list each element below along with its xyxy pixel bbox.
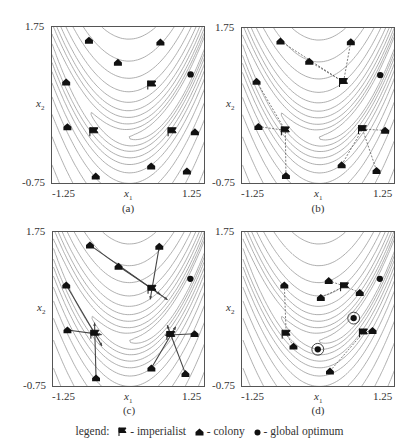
colony-icon [92,374,100,381]
colony-icon [155,243,163,250]
empire-link [343,42,350,82]
optimum-dot-icon [187,276,193,282]
y-axis-label: x2 [36,97,44,112]
x-max-tick: 1.25 [373,390,392,402]
plot-area-a [51,26,205,184]
x-max-tick: 1.25 [182,390,201,402]
flag-icon [282,330,290,339]
flag-icon [167,331,175,340]
colony-icon [356,289,364,296]
optimum-dot-icon [315,346,321,352]
colony-icon [86,242,94,249]
panel-caption: (d) [298,404,338,416]
markers [242,28,395,184]
colony-icon [325,277,333,284]
panel-caption: (c) [109,404,149,416]
flag-icon [148,81,156,90]
colony-icon [317,294,325,301]
panel-caption: (b) [298,202,338,214]
x-axis-label: x1 [124,390,132,405]
colony-icon [276,38,284,45]
plot-area-c [52,231,205,387]
y-min-tick: -0.75 [22,176,45,188]
x-min-tick: -1.25 [241,187,264,199]
colony-icon [147,162,155,169]
y-axis-label: x2 [226,97,234,112]
legend: legend: - imperialist - colony - global … [0,425,419,437]
x-max-tick: 1.25 [373,187,392,199]
x-axis-label: x1 [314,390,322,405]
x-min-tick: -1.25 [52,187,75,199]
dot-icon [254,429,261,436]
markers [53,232,205,387]
legend-optimum: - global optimum [254,425,344,437]
legend-optimum-label: - global optimum [264,425,344,437]
colony-icon [183,167,191,174]
colony-icon [282,172,290,179]
x-min-tick: -1.25 [241,390,264,402]
y-min-tick: -0.75 [23,379,46,391]
x-min-tick: -1.25 [52,390,75,402]
optimum-dot-icon [351,315,357,321]
empire-link [309,61,343,82]
plot-area-d [241,231,395,387]
y-max-tick: 1.75 [25,20,44,32]
colony-icon [63,123,71,130]
colony-icon [62,78,70,85]
legend-imperialist: - imperialist [118,425,186,437]
colony-icon [156,39,164,46]
empire-link [284,285,286,334]
colony-house-icon [195,428,204,436]
plot-area-b [241,27,395,184]
y-max-tick: 1.75 [215,21,234,33]
colony-icon [147,364,155,371]
colony-icon [85,37,93,44]
colony-icon [182,370,190,377]
colony-icon [290,343,298,350]
flag-icon [90,127,98,136]
empire-link [257,81,286,130]
x-axis-label: x1 [314,187,322,202]
flag-icon [281,126,289,135]
optimum-dot-icon [377,72,383,78]
legend-prefix: legend: [76,425,110,437]
arrowhead-icon [93,323,96,326]
colony-icon [326,368,334,375]
colony-icon [64,326,72,333]
y-min-tick: -0.75 [212,379,235,391]
legend-colony: - colony [195,425,245,437]
markers [242,232,395,387]
colony-icon [338,161,346,168]
empire-link [362,129,376,170]
empire-link [330,332,363,371]
flag-icon [148,285,156,294]
colony-icon [191,128,199,135]
colony-icon [92,173,100,180]
legend-colony-label: - colony [207,425,245,437]
colony-icon [373,167,381,174]
flag-icon [341,282,349,291]
colony-icon [253,78,261,85]
y-max-tick: 1.75 [215,225,234,237]
legend-imperialist-label: - imperialist [130,425,186,437]
flag-icon [168,127,176,136]
empire-link [342,129,363,165]
x-max-tick: 1.25 [182,187,201,199]
colony-icon [347,38,355,45]
colony-icon [191,330,199,337]
colony-icon [369,327,377,334]
flag-icon [340,78,348,87]
flag-icon [118,427,127,436]
flag-icon [358,125,366,134]
move-arrow [150,246,159,299]
markers [52,27,205,184]
y-axis-label: x2 [37,301,45,316]
colony-icon [381,127,389,134]
y-max-tick: 1.75 [26,225,45,237]
optimum-dot-icon [187,71,193,77]
x-axis-label: x1 [124,187,132,202]
y-min-tick: -0.75 [212,176,235,188]
empire-link [285,130,286,175]
colony-icon [305,58,313,65]
panel-caption: (a) [108,202,148,214]
